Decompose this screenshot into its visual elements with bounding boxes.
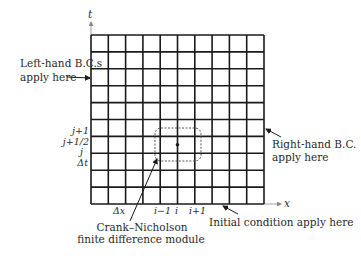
label-i-minus-1: i−1 <box>154 205 171 216</box>
label-i: i <box>175 205 178 216</box>
finite-difference-grid <box>91 35 264 204</box>
initial-condition-annotation: Initial condition apply here <box>209 206 353 228</box>
left-bc-annotation: Left-hand B.C.s apply here <box>20 57 102 83</box>
cn-module-text-line2: finite difference module <box>77 233 204 245</box>
label-j-plus-half: j+1/2 <box>61 136 89 147</box>
cn-center-point <box>176 143 180 147</box>
label-delta-x: Δx <box>112 205 126 216</box>
label-j-plus-1: j+1 <box>70 125 89 136</box>
time-index-labels: j+1 j+1/2 j Δt <box>61 125 89 168</box>
right-bc-text-line2: apply here <box>272 151 329 163</box>
label-i-plus-1: i+1 <box>189 205 206 216</box>
label-j: j <box>78 146 83 157</box>
x-axis: x <box>264 197 290 209</box>
t-axis: t <box>88 8 93 35</box>
left-bc-text-line1: Left-hand B.C.s <box>20 57 102 69</box>
initial-condition-arrow-icon <box>223 206 238 214</box>
crank-nicholson-grid-diagram: t x <box>0 0 361 256</box>
right-bc-arrow-icon <box>266 129 281 137</box>
cn-module-text-line1: Crank–Nicholson <box>96 221 187 233</box>
initial-condition-text: Initial condition apply here <box>209 216 353 228</box>
x-axis-label: x <box>284 197 290 209</box>
label-delta-t: Δt <box>76 157 88 168</box>
right-bc-annotation: Right-hand B.C. apply here <box>266 129 356 163</box>
right-bc-text-line1: Right-hand B.C. <box>272 138 356 150</box>
cn-module-annotation: Crank–Nicholson finite difference module <box>77 159 204 245</box>
t-axis-label: t <box>88 8 93 20</box>
space-index-labels: Δx i−1 i i+1 <box>112 205 206 216</box>
